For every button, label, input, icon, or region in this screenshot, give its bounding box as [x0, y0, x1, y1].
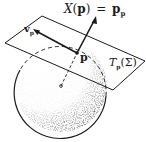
formula-paren-close: ) [86, 2, 91, 16]
formula-arg: p [77, 2, 85, 16]
formula-rhs-sub: p [120, 9, 125, 18]
normal-formula-label: X(p) = pp [64, 3, 125, 17]
point-label: p [80, 52, 88, 63]
vector-label: vp [24, 24, 34, 36]
formula-X: X [64, 2, 73, 16]
tangent-vector-arrowhead [33, 29, 40, 35]
sphere-tangent-plane-diagram [0, 0, 146, 142]
vector-label-sub: p [30, 29, 34, 36]
point-p [75, 51, 79, 55]
plane-label-arg: (Σ) [121, 56, 137, 69]
formula-equals: = [96, 2, 106, 16]
plane-label: Tp(Σ) [109, 57, 137, 70]
